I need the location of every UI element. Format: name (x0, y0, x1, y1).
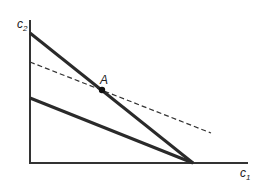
dashed-line (30, 62, 211, 133)
steep-budget-line (30, 33, 193, 163)
point-a-marker (99, 87, 105, 93)
point-a-label: A (99, 73, 108, 87)
x-axis-subscript: 1 (246, 173, 250, 182)
budget-diagram: A c2 c1 (0, 0, 270, 191)
y-axis-label: c2 (17, 17, 28, 33)
x-axis-label: c1 (240, 166, 250, 182)
flat-budget-line (30, 98, 193, 163)
y-axis-subscript: 2 (22, 24, 28, 33)
